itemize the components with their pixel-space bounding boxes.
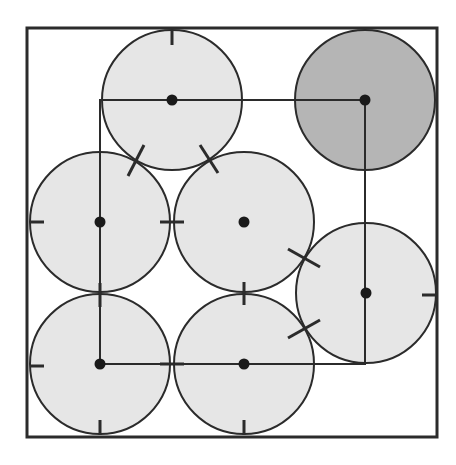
center-dot-mid-left <box>95 217 106 228</box>
center-dot-center <box>239 217 250 228</box>
center-dot-right <box>361 288 372 299</box>
center-dot-top <box>167 95 178 106</box>
center-dot-top-right <box>360 95 371 106</box>
circles-group <box>30 30 436 434</box>
diagram-canvas <box>0 0 456 465</box>
circle-packing-diagram <box>0 0 456 465</box>
center-dot-bottom-mid <box>239 359 250 370</box>
center-dot-bottom-left <box>95 359 106 370</box>
